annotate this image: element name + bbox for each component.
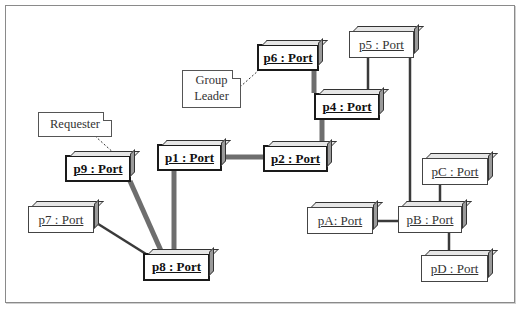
note-group-leader: Group Leader [182, 70, 241, 108]
note-requester: Requester [38, 112, 112, 137]
node-label: p8 : Port [152, 259, 201, 275]
node-label: pC : Port [432, 164, 479, 180]
note-text-line2: Leader [194, 89, 229, 105]
note-fold-icon [103, 112, 112, 121]
node-pB[interactable]: pB : Port [398, 206, 462, 233]
node-pD[interactable]: pD : Port [421, 255, 488, 282]
node-3d-side [94, 199, 99, 229]
node-3d-side [414, 24, 419, 54]
node-p6[interactable]: p6 : Port [257, 44, 319, 71]
node-p9[interactable]: p9 : Port [65, 155, 131, 182]
link-p9-p8 [130, 181, 162, 253]
node-pC[interactable]: pC : Port [422, 158, 488, 185]
node-3d-side [462, 199, 467, 229]
node-label: p2 : Port [271, 151, 320, 167]
note-text-line1: Group [196, 73, 228, 89]
node-p2[interactable]: p2 : Port [263, 145, 328, 172]
node-label: pD : Port [431, 261, 479, 277]
note-anchor-group-leader [240, 70, 259, 87]
node-label: p5 : Port [359, 37, 404, 53]
node-3d-side [373, 200, 378, 230]
node-p4[interactable]: p4 : Port [314, 93, 380, 120]
node-label: p4 : Port [322, 99, 371, 115]
node-p8[interactable]: p8 : Port [143, 253, 210, 281]
note-text: Requester [50, 117, 100, 133]
node-pA[interactable]: pA: Port [307, 207, 373, 234]
node-3d-side [488, 151, 493, 181]
node-3d-side [488, 248, 493, 278]
node-label: pB : Port [407, 212, 454, 228]
node-3d-side [209, 247, 214, 276]
node-p1[interactable]: p1 : Port [157, 144, 222, 171]
node-label: p9 : Port [73, 161, 122, 177]
node-p7[interactable]: p7 : Port [28, 206, 94, 233]
node-label: p7 : Port [39, 212, 84, 228]
note-fold-icon [232, 70, 241, 79]
node-p5[interactable]: p5 : Port [349, 31, 414, 58]
node-label: p6 : Port [263, 50, 312, 66]
node-label: p1 : Port [165, 150, 214, 166]
link-p7-p8 [95, 222, 146, 254]
node-label: pA: Port [318, 213, 362, 229]
diagram-canvas: Group Leader Requester p6 : Port p5 : Po… [0, 0, 520, 310]
